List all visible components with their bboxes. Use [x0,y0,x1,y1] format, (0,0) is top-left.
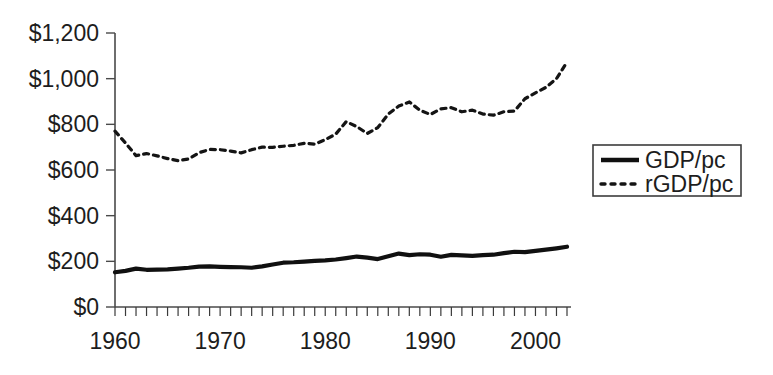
x-tick-label: 1990 [405,328,456,354]
chart-legend: GDP/pcrGDP/pc [593,145,741,197]
series-line-gdp-pc [115,247,567,273]
x-tick-label: 1960 [89,328,140,354]
series-line-rgdp-pc [115,62,567,161]
line-chart: $1,200$1,000$800$600$400$200$0 196019701… [0,0,773,375]
chart-container: $1,200$1,000$800$600$400$200$0 196019701… [0,0,773,375]
y-tick-label: $400 [48,203,99,229]
y-tick-label: $200 [48,248,99,274]
legend-label: GDP/pc [645,147,726,173]
y-tick-label: $800 [48,111,99,137]
legend-label: rGDP/pc [645,171,733,197]
y-tick-label: $1,000 [29,66,99,92]
x-tick-label: 1970 [195,328,246,354]
y-tick-label: $600 [48,157,99,183]
x-tick-label: 1980 [300,328,351,354]
y-tick-label: $0 [73,294,99,320]
y-tick-label: $1,200 [29,20,99,46]
x-tick-label: 2000 [510,328,561,354]
y-axis: $1,200$1,000$800$600$400$200$0 [29,20,115,320]
x-axis: 19601970198019902000 [89,307,571,354]
plot-area [115,62,567,272]
